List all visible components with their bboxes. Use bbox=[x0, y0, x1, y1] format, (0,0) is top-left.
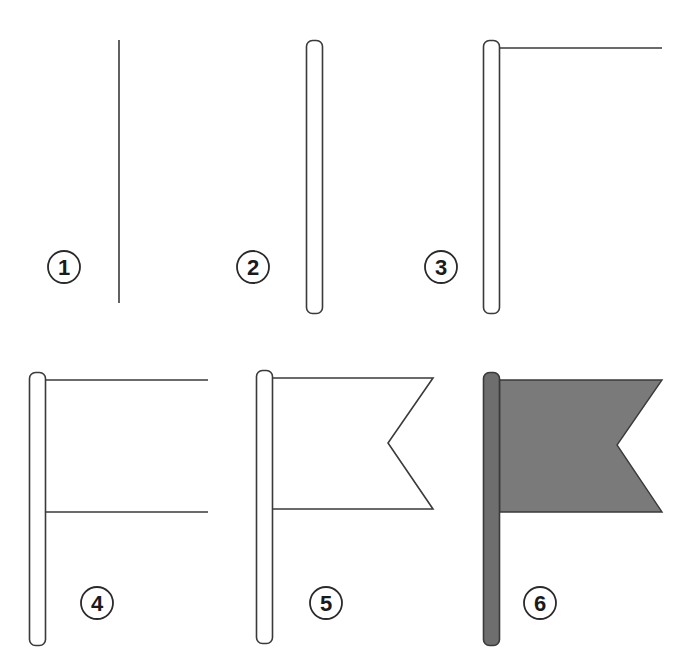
flag-pole bbox=[257, 371, 273, 644]
step-number-badge: 2 bbox=[237, 251, 269, 283]
step-number-badge: 1 bbox=[48, 251, 80, 283]
flag-outline bbox=[273, 378, 434, 509]
step-number-badge: 6 bbox=[524, 587, 556, 619]
step-number: 6 bbox=[534, 591, 546, 616]
step-4: 4 bbox=[30, 373, 209, 646]
step-5: 5 bbox=[257, 371, 434, 644]
step-6: 6 bbox=[484, 373, 663, 646]
step-number: 2 bbox=[247, 255, 259, 280]
flag-pole-filled bbox=[484, 373, 500, 646]
step-number: 5 bbox=[320, 591, 332, 616]
step-number: 3 bbox=[435, 255, 447, 280]
step-number-badge: 5 bbox=[310, 587, 342, 619]
flag-pole bbox=[30, 373, 46, 646]
step-number: 4 bbox=[91, 591, 104, 616]
flag-filled bbox=[500, 380, 663, 512]
step-1: 1 bbox=[48, 40, 119, 303]
flag-pole bbox=[484, 41, 500, 314]
step-2: 2 bbox=[237, 41, 323, 314]
flag-drawing-steps: 1 2 3 4 5 bbox=[0, 0, 700, 672]
step-number: 1 bbox=[58, 255, 70, 280]
flag-pole bbox=[307, 41, 323, 314]
step-number-badge: 4 bbox=[81, 587, 113, 619]
step-3: 3 bbox=[425, 41, 662, 314]
step-number-badge: 3 bbox=[425, 251, 457, 283]
